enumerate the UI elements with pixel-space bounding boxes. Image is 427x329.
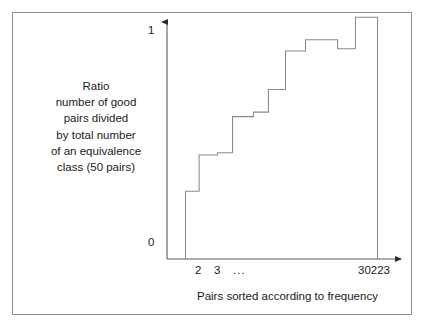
step-chart-plot: [0, 0, 427, 329]
figure-container: Ratio number of good pairs divided by to…: [0, 0, 427, 329]
step-curve: [186, 17, 378, 259]
